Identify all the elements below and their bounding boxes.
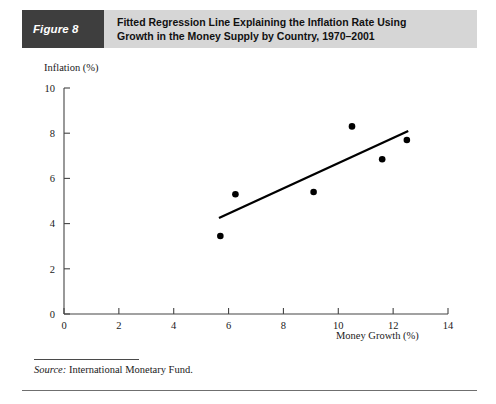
x-tick-label: 12 — [388, 320, 399, 331]
scatter-plot-svg: 0246810 02468101214 — [0, 0, 496, 404]
y-tick-label: 2 — [50, 264, 55, 275]
data-point — [217, 233, 224, 240]
x-tick-label: 14 — [443, 320, 454, 331]
data-point — [349, 123, 356, 130]
fitted-regression-line — [219, 131, 408, 218]
y-tick-label: 8 — [50, 128, 55, 139]
data-point — [232, 191, 239, 198]
y-tick-label: 4 — [50, 218, 56, 229]
x-tick-label: 10 — [333, 320, 344, 331]
y-tick-label: 0 — [50, 309, 55, 320]
x-tick-label: 2 — [116, 320, 121, 331]
source-text: International Monetary Fund. — [66, 364, 193, 375]
source-note: Source: International Monetary Fund. — [34, 364, 193, 375]
figure-container: Figure 8 Fitted Regression Line Explaini… — [0, 0, 496, 404]
chart-area: Inflation (%) Money Growth (%) 0246810 0… — [0, 0, 496, 404]
data-point — [404, 137, 411, 144]
source-label: Source: — [34, 364, 66, 375]
source-divider — [34, 359, 139, 360]
y-tick-label: 6 — [50, 173, 55, 184]
data-point — [310, 189, 317, 196]
data-point — [379, 156, 386, 163]
bottom-divider — [22, 390, 477, 391]
regression-line — [219, 131, 408, 218]
x-tick-label: 8 — [281, 320, 286, 331]
data-points — [217, 123, 410, 239]
y-axis-ticks: 0246810 — [45, 83, 71, 320]
x-tick-label: 6 — [226, 320, 231, 331]
y-tick-label: 10 — [45, 83, 56, 94]
x-axis-ticks: 02468101214 — [61, 308, 454, 331]
x-tick-label: 4 — [171, 320, 177, 331]
x-tick-label: 0 — [61, 320, 66, 331]
